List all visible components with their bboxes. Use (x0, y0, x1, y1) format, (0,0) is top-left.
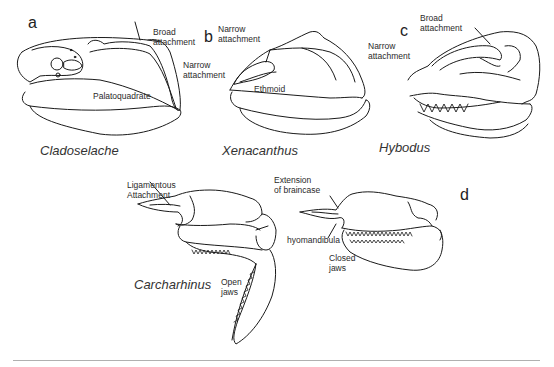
hybodus-skull-drawing (408, 28, 540, 138)
panel-letter-a: a (28, 14, 37, 32)
label-extension-of-braincase: Extension of braincase (274, 175, 320, 195)
panel-letter-c: c (400, 22, 408, 40)
panel-letter-d: d (460, 186, 469, 204)
label-broad-attachment-a: Broad attachment (153, 27, 195, 47)
carcharhinus-closed-jaws-drawing (300, 192, 443, 270)
label-narrow-attachment-c: Narrow attachment (368, 41, 410, 61)
species-name-hybodus: Hybodus (379, 140, 430, 155)
label-ligamentous-attachment: Ligamentous Attachment (127, 180, 176, 200)
species-name-carcharhinus: Carcharhinus (134, 277, 211, 292)
label-palatoquadrate: Palatoquadrate (93, 91, 151, 101)
panel-letter-b: b (204, 28, 213, 46)
label-ethmoid: Ethmoid (254, 84, 285, 94)
carcharhinus-open-jaws-drawing (138, 182, 276, 344)
label-broad-attachment-c: Broad attachment (420, 13, 462, 33)
label-narrow-attachment-b-top: Narrow attachment (218, 24, 260, 44)
label-narrow-attachment-b-side: Narrow attachment (183, 60, 225, 80)
species-name-cladoselache: Cladoselache (40, 143, 119, 158)
label-open-jaws: Open jaws (221, 277, 242, 297)
label-closed-jaws: Closed jaws (329, 253, 355, 273)
xenacanthus-skull-drawing (230, 31, 370, 134)
species-name-xenacanthus: Xenacanthus (222, 143, 298, 158)
label-hyomandibula: hyomandibula (287, 235, 340, 245)
bottom-divider (13, 360, 540, 361)
teeth-closed (346, 232, 412, 243)
